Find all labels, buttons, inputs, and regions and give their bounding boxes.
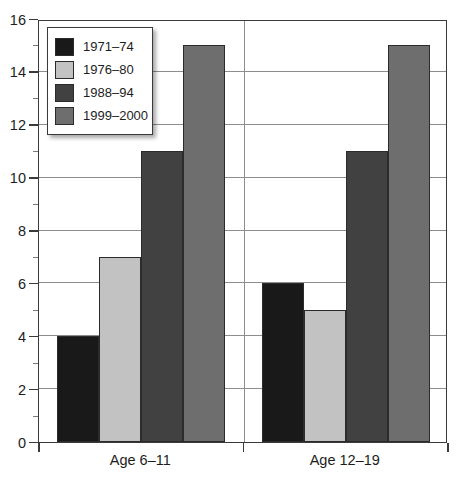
bar	[141, 151, 183, 442]
bar	[262, 283, 304, 442]
bar	[346, 151, 388, 442]
legend-swatch-icon	[55, 84, 74, 102]
bar	[388, 45, 430, 442]
legend-row: 1988–94	[55, 81, 144, 104]
y-tick-8	[29, 230, 38, 232]
x-category-label: Age 6–11	[38, 452, 243, 468]
bar	[183, 45, 225, 442]
y-tick-2	[29, 389, 38, 391]
y-tick-label: 10	[10, 171, 26, 186]
legend-label: 1976–80	[83, 63, 134, 76]
y-tick-12	[29, 124, 38, 126]
y-tick-label: 2	[18, 383, 26, 398]
legend-label: 1988–94	[83, 86, 134, 99]
x-tick	[447, 443, 449, 452]
y-tick-10	[29, 177, 38, 179]
legend-swatch-icon	[55, 38, 74, 56]
legend-label: 1971–74	[83, 40, 134, 53]
y-tick-label: 14	[10, 65, 26, 80]
legend-row: 1976–80	[55, 58, 144, 81]
y-axis: 0246810121416	[0, 20, 38, 443]
legend-swatch-icon	[55, 107, 74, 125]
x-tick	[38, 443, 40, 452]
category-divider	[244, 21, 245, 442]
bar-chart-figure: 0246810121416 Age 6–11Age 12–19 1971–741…	[0, 0, 459, 479]
bar	[99, 257, 141, 442]
legend-row: 1999–2000	[55, 104, 144, 127]
y-tick-label: 12	[10, 118, 26, 133]
legend-row: 1971–74	[55, 35, 144, 58]
y-tick-16	[29, 19, 38, 21]
y-tick-label: 4	[18, 330, 26, 345]
y-tick-label: 0	[18, 436, 26, 451]
y-tick-14	[29, 71, 38, 73]
legend-swatch-icon	[55, 61, 74, 79]
y-tick-label: 6	[18, 277, 26, 292]
bar	[304, 310, 346, 442]
y-tick-6	[29, 283, 38, 285]
legend-label: 1999–2000	[83, 109, 148, 122]
bar	[57, 336, 99, 442]
y-tick-label: 16	[10, 13, 26, 28]
y-tick-4	[29, 336, 38, 338]
y-tick-label: 8	[18, 224, 26, 239]
chart-legend: 1971–741976–801988–941999–2000	[47, 27, 153, 135]
x-category-label: Age 12–19	[243, 452, 448, 468]
y-tick-0	[29, 442, 38, 444]
x-tick	[243, 443, 245, 452]
